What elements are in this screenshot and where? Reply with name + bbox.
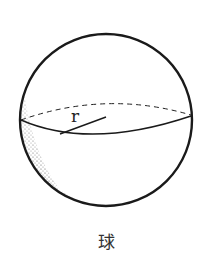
sphere-diagram: r bbox=[0, 0, 213, 254]
stipple-shading bbox=[20, 60, 140, 212]
equator-front bbox=[21, 116, 191, 134]
radius-label: r bbox=[71, 106, 80, 126]
radius-line bbox=[60, 117, 106, 134]
sphere-outline bbox=[20, 34, 192, 206]
caption: 球 bbox=[0, 228, 213, 253]
